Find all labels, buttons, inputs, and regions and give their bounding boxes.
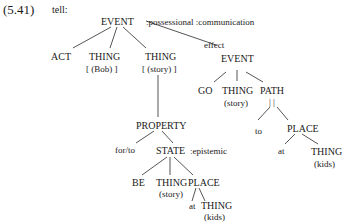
svg-text:PLACE: PLACE (188, 177, 220, 188)
node-to: to (255, 126, 263, 136)
svg-text:PLACE: PLACE (287, 123, 319, 134)
node-thing-story-3: THING (story) (156, 177, 187, 199)
svg-text:THING: THING (145, 51, 176, 62)
node-thing-kids-2: THING (kids) (201, 200, 232, 222)
svg-text:THING: THING (89, 51, 120, 62)
node-go: GO (198, 85, 212, 96)
svg-text:BE: BE (132, 177, 145, 188)
node-state: STATE :epistemic (156, 145, 227, 156)
node-at: at (278, 146, 285, 156)
semantic-tree-diagram: (5.41) tell: EVENT :possessional (0, 0, 346, 222)
svg-text:STATE: STATE (156, 145, 185, 156)
node-place-2: PLACE (188, 177, 220, 188)
node-at-2: at (189, 201, 196, 211)
svg-text:(story): (story) (159, 189, 183, 199)
node-path: PATH | | (260, 85, 284, 107)
svg-text:[ (story) ]: [ (story) ] (142, 64, 177, 74)
svg-text:to: to (255, 126, 263, 136)
example-number: (5.41) (3, 2, 34, 17)
node-place: PLACE (287, 123, 319, 134)
node-thing-kids: THING (kids) (311, 146, 342, 169)
node-root-event: EVENT :possessional :communication (101, 16, 255, 27)
svg-text:[ (Bob) ]: [ (Bob) ] (86, 64, 118, 74)
svg-text:ACT: ACT (51, 51, 71, 62)
svg-text:EVENT: EVENT (101, 16, 134, 27)
svg-text:at: at (278, 146, 285, 156)
svg-text:at: at (189, 201, 196, 211)
effect-label: effect (204, 40, 225, 50)
node-thing-story-2: THING (story) (222, 85, 253, 108)
node-thing-story: THING [ (story) ] (142, 51, 177, 74)
svg-text:PROPERTY: PROPERTY (136, 120, 187, 131)
verb-label: tell: (52, 4, 68, 15)
tree-edges (73, 21, 318, 201)
svg-text:THING: THING (311, 146, 342, 157)
svg-text:GO: GO (198, 85, 212, 96)
svg-text:(kids): (kids) (204, 212, 225, 222)
node-event-effect: EVENT (221, 53, 254, 64)
svg-text:(kids): (kids) (314, 159, 335, 169)
root-features: :possessional :communication (146, 17, 255, 27)
node-for-to: for/to (115, 145, 135, 155)
svg-text:PATH: PATH (260, 85, 284, 96)
svg-text:for/to: for/to (115, 145, 135, 155)
node-thing-bob: THING [ (Bob) ] (86, 51, 120, 74)
node-act: ACT (51, 51, 71, 62)
node-property: PROPERTY (136, 120, 187, 131)
svg-text:THING: THING (156, 177, 187, 188)
svg-text:EVENT: EVENT (221, 53, 254, 64)
svg-text:| |: | | (269, 97, 275, 107)
svg-text:(story): (story) (224, 98, 248, 108)
svg-text:THING: THING (222, 85, 253, 96)
node-be: BE (132, 177, 145, 188)
svg-text:THING: THING (201, 200, 232, 211)
state-features: :epistemic (190, 146, 227, 156)
